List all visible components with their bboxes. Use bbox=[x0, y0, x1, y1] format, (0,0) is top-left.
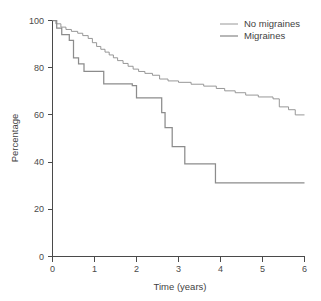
x-tick-label-3: 3 bbox=[176, 264, 181, 274]
y-tick-label-80: 80 bbox=[34, 63, 44, 73]
y-axis-ticks bbox=[48, 21, 53, 257]
x-tick-label-5: 5 bbox=[260, 264, 265, 274]
axis-lines bbox=[53, 21, 305, 257]
x-tick-label-1: 1 bbox=[92, 264, 97, 274]
y-tick-label-0: 0 bbox=[39, 252, 44, 262]
y-tick-label-60: 60 bbox=[34, 110, 44, 120]
x-tick-label-4: 4 bbox=[218, 264, 223, 274]
y-axis-title: Percentage bbox=[9, 114, 20, 163]
chart-figure: 0 20 40 60 80 100 0 1 2 3 4 5 6 bbox=[0, 0, 321, 301]
y-tick-label-40: 40 bbox=[34, 157, 44, 167]
x-tick-label-0: 0 bbox=[50, 264, 55, 274]
series-group bbox=[53, 21, 305, 183]
x-tick-label-2: 2 bbox=[134, 264, 139, 274]
x-axis-tick-labels: 0 1 2 3 4 5 6 bbox=[50, 264, 307, 274]
x-tick-label-6: 6 bbox=[302, 264, 307, 274]
x-axis-title: Time (years) bbox=[154, 281, 207, 292]
x-axis-ticks bbox=[53, 257, 305, 262]
survival-curve-chart: 0 20 40 60 80 100 0 1 2 3 4 5 6 bbox=[0, 0, 321, 301]
y-tick-label-20: 20 bbox=[34, 204, 44, 214]
legend-label-no-migraines: No migraines bbox=[244, 18, 300, 29]
y-axis-tick-labels: 0 20 40 60 80 100 bbox=[29, 16, 44, 262]
legend-label-migraines: Migraines bbox=[244, 30, 285, 41]
chart-legend: No migraines Migraines bbox=[220, 18, 300, 41]
y-tick-label-100: 100 bbox=[29, 16, 44, 26]
series-line-migraines bbox=[53, 21, 305, 183]
